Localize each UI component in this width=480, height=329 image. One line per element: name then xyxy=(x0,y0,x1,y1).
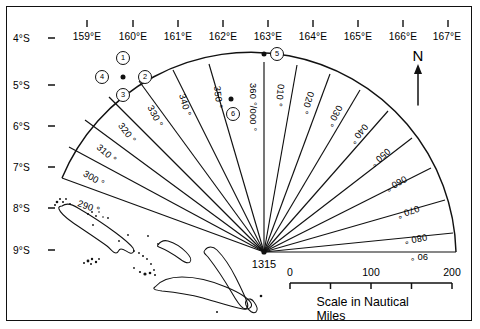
target-marker-2[interactable]: 2 xyxy=(138,70,152,84)
lat-tick-label-8s: 8°S xyxy=(13,203,30,214)
target-dot-6 xyxy=(229,97,234,102)
lon-tick-label-167: 167°E xyxy=(433,31,461,42)
lat-tick-label-4s: 4°S xyxy=(13,33,30,44)
north-arrow-label: N xyxy=(413,47,424,64)
scale-bar-caption: Scale in Nautical Miles xyxy=(317,295,426,323)
target-dot-5 xyxy=(262,52,267,57)
bearing-label-090: 90 ° xyxy=(411,252,428,262)
target-marker-5[interactable]: 5 xyxy=(270,47,284,61)
scale-tick-label-200: 200 xyxy=(443,266,461,278)
lat-tick-label-6s: 6°S xyxy=(13,121,30,132)
lat-tick-label-9s: 9°S xyxy=(13,245,30,256)
target-marker-1[interactable]: 1 xyxy=(116,51,130,65)
scale-bar-graphic xyxy=(290,283,452,289)
north-arrow-graphic xyxy=(414,64,422,105)
bearing-fan xyxy=(62,52,456,252)
radar-bearing-chart: 159°E 160°E 161°E 162°E 163°E 164°E 165°… xyxy=(0,0,480,329)
lon-tick-label-160: 160°E xyxy=(119,31,147,42)
lat-tick-label-5s: 5°S xyxy=(13,80,30,91)
lon-tick-label-162: 162°E xyxy=(209,31,237,42)
solomon-islands-coastline xyxy=(59,204,257,312)
graticule-ticks xyxy=(48,20,448,250)
lon-tick-label-164: 164°E xyxy=(299,31,327,42)
bearing-label-360-000: 360 °/000 ° xyxy=(248,83,258,131)
origin-time-label: 1315 xyxy=(252,258,276,270)
target-marker-6[interactable]: 6 xyxy=(226,107,240,121)
target-marker-4[interactable]: 4 xyxy=(95,70,109,84)
lon-tick-label-159: 159°E xyxy=(73,31,101,42)
target-marker-3[interactable]: 3 xyxy=(116,88,130,102)
lon-tick-label-161: 161°E xyxy=(164,31,192,42)
lon-tick-label-163: 163°E xyxy=(254,31,282,42)
lat-tick-label-7s: 7°S xyxy=(13,162,30,173)
lon-tick-label-166: 166°E xyxy=(389,31,417,42)
target-dot-group-a xyxy=(121,75,126,80)
lon-tick-label-165: 165°E xyxy=(344,31,372,42)
radar-origin-marker xyxy=(261,249,266,254)
chart-vector-layer xyxy=(0,0,480,329)
scale-tick-label-0: 0 xyxy=(287,266,293,278)
island-specks xyxy=(54,198,262,313)
scale-tick-label-100: 100 xyxy=(362,266,380,278)
